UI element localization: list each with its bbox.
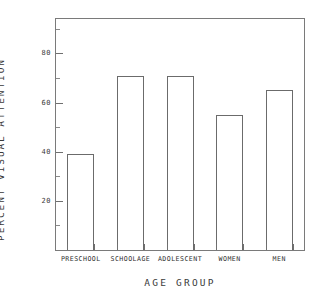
- y-axis-tick-mark: [56, 103, 63, 104]
- bar: [167, 76, 194, 250]
- bar: [216, 115, 243, 250]
- y-axis-tick-label: 60: [42, 99, 51, 107]
- bar: [266, 90, 293, 250]
- x-axis-tick-mark: [243, 244, 244, 250]
- x-axis-tick-mark: [167, 244, 168, 250]
- x-axis-tick-mark: [67, 244, 68, 250]
- y-axis-tick-mark: [56, 53, 63, 54]
- y-axis-title: PERCENT VISUAL ATTENTION: [0, 0, 46, 299]
- y-axis-minor-tick: [56, 127, 60, 128]
- x-axis-tick-mark: [266, 244, 267, 250]
- x-axis-tick-label: MEN: [273, 255, 286, 263]
- x-axis-tick-mark: [216, 244, 217, 250]
- x-axis-title: AGE GROUP: [55, 277, 305, 288]
- y-axis-tick-mark: [56, 201, 63, 202]
- y-axis-tick-label: 20: [42, 197, 51, 205]
- y-axis-tick-label: 40: [42, 148, 51, 156]
- x-axis-tick-mark: [94, 244, 95, 250]
- y-axis-minor-tick: [56, 29, 60, 30]
- bar: [117, 76, 144, 250]
- x-axis-tick-label: ADOLESCENT: [158, 255, 202, 263]
- x-axis-tick-mark: [117, 244, 118, 250]
- y-axis-tick-label: 80: [42, 49, 51, 57]
- x-axis-tick-mark: [144, 244, 145, 250]
- x-axis-tick-mark: [194, 244, 195, 250]
- y-axis-minor-tick: [56, 78, 60, 79]
- bar-chart: PERCENT VISUAL ATTENTION 20406080 PRESCH…: [0, 0, 335, 299]
- y-axis-minor-tick: [56, 225, 60, 226]
- x-axis-tick-label: WOMEN: [219, 255, 241, 263]
- plot-area: 20406080: [55, 18, 305, 251]
- y-axis-minor-tick: [56, 176, 60, 177]
- bar: [67, 154, 94, 250]
- x-axis-tick-label: PRESCHOOL: [61, 255, 101, 263]
- plot-inner: 20406080: [56, 19, 304, 250]
- y-axis-tick-mark: [56, 152, 63, 153]
- x-axis-tick-mark: [293, 244, 294, 250]
- x-axis-tick-label: SCHOOLAGE: [111, 255, 151, 263]
